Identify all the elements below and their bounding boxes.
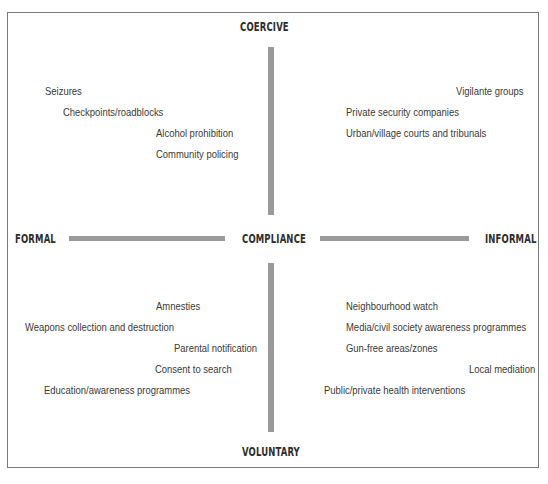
- pole-label-formal: FORMAL: [15, 232, 56, 246]
- axis-bar-left: [69, 236, 225, 241]
- list-item: Urban/village courts and tribunals: [346, 127, 486, 139]
- list-item: Consent to search: [155, 363, 232, 375]
- list-item: Weapons collection and destruction: [25, 321, 174, 333]
- list-item: Parental notification: [174, 342, 257, 354]
- pole-label-voluntary: VOLUNTARY: [242, 445, 300, 459]
- axis-bar-bottom: [268, 263, 274, 432]
- list-item: Neighbourhood watch: [346, 300, 438, 312]
- list-item: Education/awareness programmes: [44, 384, 190, 396]
- list-item: Checkpoints/roadblocks: [63, 106, 163, 118]
- center-label-compliance: COMPLIANCE: [242, 232, 306, 246]
- list-item: Vigilante groups: [456, 85, 524, 97]
- list-item: Gun-free areas/zones: [346, 342, 437, 354]
- list-item: Media/civil society awareness programmes: [346, 321, 526, 333]
- list-item: Public/private health interventions: [324, 384, 465, 396]
- list-item: Seizures: [45, 85, 82, 97]
- list-item: Alcohol prohibition: [156, 127, 233, 139]
- list-item: Private security companies: [346, 106, 459, 118]
- list-item: Local mediation: [469, 363, 535, 375]
- list-item: Community policing: [156, 148, 238, 160]
- axis-bar-right: [320, 236, 469, 241]
- axis-bar-top: [268, 47, 274, 215]
- list-item: Amnesties: [156, 300, 200, 312]
- pole-label-informal: INFORMAL: [485, 232, 537, 246]
- pole-label-coercive: COERCIVE: [240, 20, 289, 34]
